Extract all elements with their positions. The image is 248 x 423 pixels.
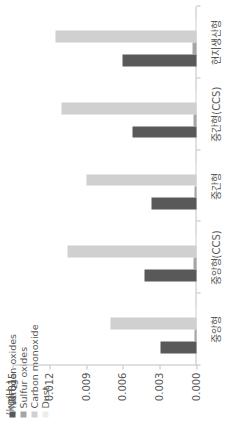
bar-chart-figure: Nitrogen oxidesSulfur oxidesCarbon monox… xyxy=(0,0,248,423)
category-label: 중앙형 xyxy=(207,316,222,343)
value-axis-line xyxy=(12,364,196,365)
bar xyxy=(61,102,196,114)
category-axis-tick xyxy=(196,220,200,221)
category-axis-tick xyxy=(196,292,200,293)
axis-unit-label: (kg/H2) xyxy=(4,379,18,415)
legend-swatch-icon xyxy=(20,411,26,417)
bar xyxy=(192,42,196,54)
y-axis-tick-label: 0.003 xyxy=(154,372,165,401)
y-axis-tick xyxy=(196,365,197,369)
category-axis-tick xyxy=(196,364,200,365)
rotated-page-wrapper: Nitrogen oxidesSulfur oxidesCarbon monox… xyxy=(0,0,248,423)
category-axis-tick xyxy=(196,5,200,6)
category-label: 현지생산형 xyxy=(207,19,222,64)
bar xyxy=(195,162,196,174)
legend-swatch-icon xyxy=(31,411,37,417)
category-label: 중간형 xyxy=(207,172,222,199)
bar xyxy=(144,269,196,281)
bar xyxy=(195,90,196,102)
y-axis-tick-label: 0.000 xyxy=(191,372,202,401)
bar xyxy=(195,305,196,317)
y-axis-tick xyxy=(159,365,160,369)
bar xyxy=(151,197,196,209)
category-label: 중앙형(CCS) xyxy=(207,230,222,285)
y-axis-tick xyxy=(122,365,123,369)
bar xyxy=(195,18,196,30)
y-axis-tick-label: 0.012 xyxy=(43,372,54,401)
legend-swatch-icon xyxy=(42,411,48,417)
bar xyxy=(195,234,196,246)
bar xyxy=(160,341,196,353)
bar xyxy=(86,174,196,186)
bar xyxy=(193,257,196,269)
y-axis-tick xyxy=(12,365,13,369)
plot-inner: 0.0000.0030.0060.0090.0120.015중앙형중앙형(CCS… xyxy=(12,6,196,365)
category-axis-tick xyxy=(196,149,200,150)
y-axis-tick-label: 0.006 xyxy=(117,372,128,401)
bar xyxy=(194,186,196,198)
bar xyxy=(194,329,196,341)
category-axis-tick xyxy=(196,77,200,78)
y-axis-tick xyxy=(49,365,50,369)
bar xyxy=(132,126,196,138)
bar xyxy=(55,30,196,42)
category-label: 중간형(CCS) xyxy=(207,86,222,141)
y-axis-tick-label: 0.009 xyxy=(80,372,91,401)
bar xyxy=(122,54,196,66)
plot-area: 0.0000.0030.0060.0090.0120.015중앙형중앙형(CCS… xyxy=(12,6,196,365)
y-axis-tick xyxy=(86,365,87,369)
bar xyxy=(67,245,196,257)
bar xyxy=(110,317,196,329)
bar xyxy=(193,114,196,126)
